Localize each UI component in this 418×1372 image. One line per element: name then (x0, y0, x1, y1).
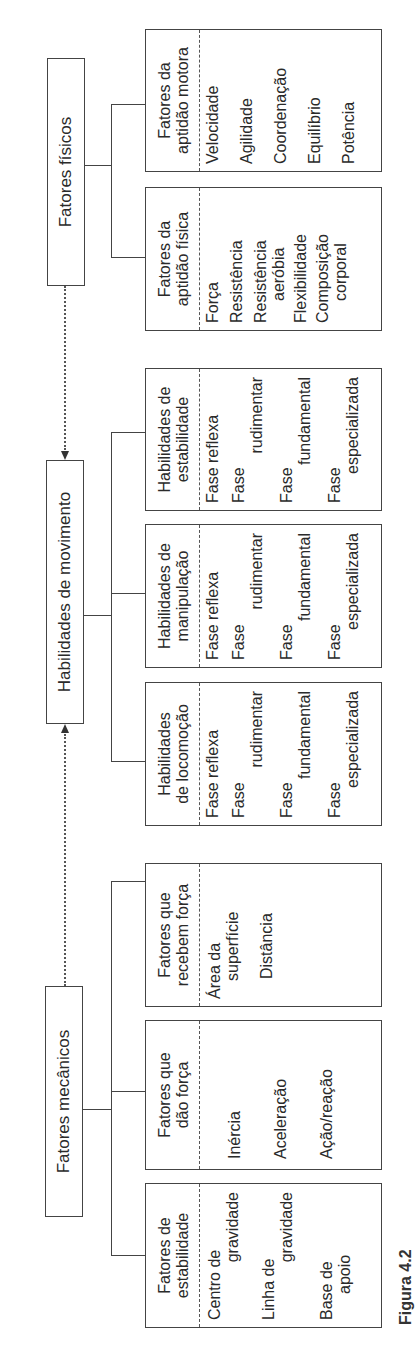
list-item: Faserudimentar (230, 373, 266, 503)
tree-stem-mecanicos (83, 1109, 112, 1110)
list-item: Fasefundamental (278, 529, 314, 660)
header-label: Fatores mecânicos (54, 1030, 74, 1174)
tree-bar-fisicos (111, 104, 112, 258)
header-fatores-fisicos: Fatores físicos (47, 58, 85, 286)
list-item: Composiçãocorporal (314, 192, 350, 323)
box-habilidades-manipulacao: Habilidades demanipulação Fase reflexa F… (145, 524, 382, 668)
list-item: Inércia (226, 1025, 244, 1159)
list-item: Faseespecializada (326, 529, 362, 660)
box-items: Força Resistência Resistênciaaeróbia Fle… (202, 188, 381, 330)
list-item: Área dasuperfície (206, 868, 242, 999)
tree-drop (111, 881, 145, 882)
list-item: Flexibilidade (292, 192, 310, 323)
list-item: Faseespecializada (326, 373, 362, 503)
list-item: Distância (258, 868, 276, 999)
list-item: Faseespecializada (326, 687, 362, 818)
box-aptidao-motora: Fatores daaptidão motora Velocidade Agil… (145, 29, 382, 172)
box-items: Velocidade Agilidade Coordenação Equilíb… (202, 30, 381, 171)
tree-stem-movimento (84, 615, 112, 616)
box-title: Habilidades demanipulação (146, 525, 200, 667)
list-item: Faserudimentar (230, 687, 266, 818)
tree-drop (111, 761, 145, 762)
box-items: Fase reflexa Faserudimentar Fasefundamen… (202, 525, 381, 667)
header-fatores-mecanicos: Fatores mecânicos (45, 986, 83, 1217)
box-title: Fatores querecebem força (146, 864, 200, 1006)
box-items: Fase reflexa Faserudimentar Fasefundamen… (202, 369, 381, 510)
list-item: Fase reflexa (204, 373, 222, 503)
tree-drop (111, 593, 145, 594)
box-aptidao-fisica: Fatores daaptidão física Força Resistênc… (145, 187, 382, 331)
box-habilidades-estabilidade: Habilidades deestabilidade Fase reflexa … (145, 368, 382, 511)
diagram: Fatores mecânicos Habilidades de movimen… (0, 0, 418, 1372)
arrow-right-icon (61, 724, 69, 733)
list-item: Fase reflexa (204, 529, 222, 660)
box-habilidades-locomocao: Habilidadesde locomoção Fase reflexa Fas… (145, 682, 382, 826)
box-title: Fatores daaptidão motora (146, 30, 200, 171)
tree-stem-fisicos (85, 165, 112, 166)
box-items: Centro degravidade Linha degravidade Bas… (202, 1184, 381, 1327)
list-item: Resistênciaaeróbia (252, 192, 288, 323)
box-title: Habilidadesde locomoção (146, 683, 200, 825)
list-item: Equilíbrio (306, 34, 324, 164)
list-item: Agilidade (238, 34, 256, 164)
list-item: Base deapoio (318, 1188, 354, 1320)
header-label: Habilidades de movimento (55, 492, 75, 692)
box-title: Fatores quedão força (146, 1021, 200, 1169)
header-label: Fatores físicos (56, 117, 76, 228)
box-fatores-estabilidade: Fatores deestabilidade Centro degravidad… (145, 1183, 382, 1328)
list-item: Ação/reação (318, 1025, 336, 1159)
list-item: Linha degravidade (260, 1188, 296, 1320)
list-item: Força (204, 192, 222, 323)
dotted-connector-left (64, 734, 66, 986)
list-item: Aceleração (272, 1025, 290, 1159)
box-items: Inércia Aceleração Ação/reação (202, 1021, 381, 1169)
list-item: Fasefundamental (278, 373, 314, 503)
list-item: Faserudimentar (230, 529, 266, 660)
figure-caption: Figura 4.2 (397, 1249, 415, 1325)
arrow-left-icon (61, 451, 69, 460)
tree-bar-mecanicos (111, 881, 112, 1256)
list-item: Fasefundamental (278, 687, 314, 818)
tree-drop (111, 1091, 145, 1092)
box-title: Habilidades deestabilidade (146, 369, 200, 510)
tree-drop (111, 104, 145, 105)
tree-drop (111, 1255, 145, 1256)
tree-drop (111, 257, 145, 258)
tree-drop (111, 432, 145, 433)
box-items: Fase reflexa Faserudimentar Fasefundamen… (202, 683, 381, 825)
box-fatores-recebem-forca: Fatores querecebem força Área dasuperfíc… (145, 863, 382, 1007)
list-item: Velocidade (204, 34, 222, 164)
header-habilidades-movimento: Habilidades de movimento (46, 460, 84, 724)
list-item: Potência (340, 34, 358, 164)
list-item: Centro degravidade (206, 1188, 242, 1320)
box-fatores-dao-forca: Fatores quedão força Inércia Aceleração … (145, 1020, 382, 1170)
tree-bar-movimento (111, 432, 112, 762)
list-item: Resistência (228, 192, 246, 323)
dotted-connector-right (64, 286, 66, 450)
list-item: Fase reflexa (204, 687, 222, 818)
box-title: Fatores deestabilidade (146, 1184, 200, 1327)
list-item: Coordenação (272, 34, 290, 164)
box-title: Fatores daaptidão física (146, 188, 200, 330)
box-items: Área dasuperfície Distância (202, 864, 381, 1006)
